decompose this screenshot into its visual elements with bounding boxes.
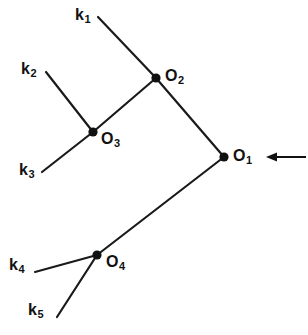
edge-o3-o2: [93, 78, 156, 132]
vertex-label-o1: O1: [233, 148, 252, 164]
leg-label-k2-sub: 2: [30, 67, 36, 79]
leg-label-k3-sub: 3: [28, 168, 34, 180]
vertex-dots: [88, 73, 228, 259]
vertex-label-o1-sub: 1: [246, 154, 252, 166]
vertex-dot-o3: [88, 127, 97, 136]
vertex-label-o4: O4: [106, 254, 125, 270]
vertex-label-o2: O2: [165, 68, 184, 84]
vertex-label-o3-sub: 3: [114, 137, 120, 149]
leg-label-k5-sub: 5: [37, 308, 43, 320]
incoming-arrow: [266, 153, 306, 162]
vertex-dot-o1: [219, 152, 228, 161]
leg-label-k4-sub: 4: [18, 263, 24, 275]
leg-label-k4-base: k: [9, 256, 18, 273]
leg-label-k1-sub: 1: [84, 13, 90, 25]
vertex-label-o4-sub: 4: [119, 260, 125, 272]
vertex-label-o2-base: O: [165, 67, 177, 84]
leg-line-k3: [42, 132, 93, 172]
leg-label-k4: k4: [9, 257, 24, 273]
vertex-dot-o2: [151, 73, 160, 82]
vertex-label-o4-base: O: [106, 253, 118, 270]
leg-line-k2: [46, 72, 93, 132]
vertex-dot-o4: [92, 250, 101, 259]
leg-label-k3: k3: [19, 162, 34, 178]
leg-line-k1: [98, 17, 156, 78]
edge-o2-o1: [156, 78, 224, 157]
leg-label-k3-base: k: [19, 161, 28, 178]
leg-label-k1: k1: [75, 7, 90, 23]
vertex-label-o1-base: O: [233, 147, 245, 164]
diagram-svg: [0, 0, 308, 335]
leg-label-k5-base: k: [28, 301, 37, 318]
leg-label-k2-base: k: [21, 60, 30, 77]
edge-o4-o1: [97, 157, 224, 255]
leg-label-k2: k2: [21, 61, 36, 77]
vertex-label-o3: O3: [101, 131, 120, 147]
external-legs: [35, 17, 156, 317]
incoming-arrow-head: [266, 153, 277, 162]
diagram-canvas: O1 O2 O3 O4 k1 k2 k3 k4 k5: [0, 0, 308, 335]
leg-label-k5: k5: [28, 302, 43, 318]
vertex-label-o2-sub: 2: [178, 74, 184, 86]
internal-edges: [93, 78, 224, 255]
leg-label-k1-base: k: [75, 6, 84, 23]
vertex-label-o3-base: O: [101, 130, 113, 147]
